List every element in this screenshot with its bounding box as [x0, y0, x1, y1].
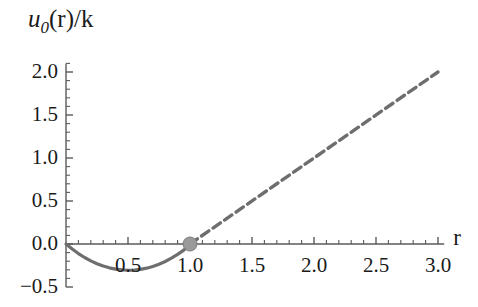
x-axis-label: r — [453, 226, 461, 249]
y-tick-label: −0.5 — [0, 276, 58, 297]
y-tick-label: 1.0 — [0, 147, 58, 168]
x-tick-label: 0.5 — [102, 255, 154, 276]
x-tick-label: 1.0 — [164, 255, 216, 276]
y-tick-label: 1.5 — [0, 104, 58, 125]
y-tick-label: 0.5 — [0, 190, 58, 211]
series-path-1 — [190, 72, 438, 244]
chart-figure: u0(r)/k −0.50.00.51.01.52.00.51.01.52.02… — [0, 0, 478, 307]
y-tick-label: 2.0 — [0, 61, 58, 82]
x-tick-label: 3.0 — [412, 255, 464, 276]
x-tick-label: 2.0 — [288, 255, 340, 276]
contact-point-marker — [183, 237, 197, 251]
y-tick-label: 0.0 — [0, 233, 58, 254]
x-tick-label: 2.5 — [350, 255, 402, 276]
x-tick-label: 1.5 — [226, 255, 278, 276]
